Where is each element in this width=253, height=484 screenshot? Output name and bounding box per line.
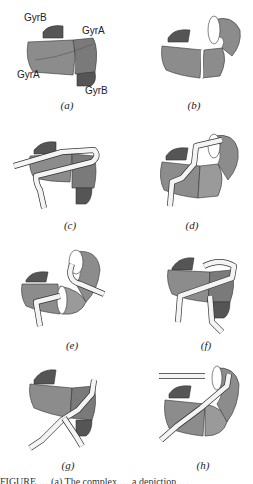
panel-label-c: (c) <box>50 219 90 231</box>
panel-label-e: (e) <box>52 339 92 351</box>
panel-g: (g) <box>20 360 140 478</box>
label-gyrb-top: GyrB <box>24 12 47 23</box>
panel-d: (d) <box>132 120 252 238</box>
label-gyra-left: GyrA <box>17 69 40 80</box>
panel-c: (c) <box>0 120 120 238</box>
label-gyra-right: GyrA <box>82 25 105 36</box>
panel-f: (f) <box>150 240 253 358</box>
panel-h: (h) <box>155 360 253 478</box>
panel-e: (e) <box>10 240 130 358</box>
panel-b: (b) <box>132 0 252 118</box>
label-gyrb-bottom: GyrB <box>85 85 108 96</box>
panel-label-a: (a) <box>47 99 87 111</box>
panel-label-g: (g) <box>48 459 88 471</box>
panel-a: GyrB GyrA GyrA GyrB (a) <box>5 0 125 118</box>
panel-label-f: (f) <box>186 339 226 351</box>
panel-label-b: (b) <box>174 99 214 111</box>
panel-label-h: (h) <box>183 459 223 471</box>
panel-label-d: (d) <box>172 219 212 231</box>
figure-caption-partial: FIGURE … (a) The complex … a depiction … <box>0 477 253 484</box>
